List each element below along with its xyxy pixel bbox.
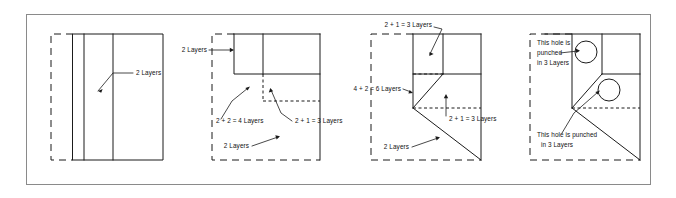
panel4-label-lower-line2: in 3 Layers <box>541 141 573 149</box>
panel4-label-upper-line2: punched <box>537 49 562 57</box>
panel2-label-3-layers: 2 + 1 = 3 Layers <box>295 117 342 125</box>
panel3-label-6-layers: 4 + 2 = 6 Layers <box>354 85 401 93</box>
panel2-label-2-layers-top: 2 Layers <box>182 46 207 54</box>
canvas-background <box>0 0 676 198</box>
panel1-label-2-layers: 2 Layers <box>136 69 161 77</box>
layer-diagram: 2 Layers 2 Layers 2 + 2 = 4 Layers <box>0 0 676 198</box>
panel2-label-2-layers-bottom: 2 Layers <box>224 142 249 150</box>
figure-container: 2 Layers 2 Layers 2 + 2 = 4 Layers <box>0 0 676 198</box>
panel4-label-upper-line1: This hole is <box>537 39 570 46</box>
panel2-label-4-layers: 2 + 2 = 4 Layers <box>216 117 263 125</box>
panel3-label-3-layers-right: 2 + 1 = 3 Layers <box>449 115 496 123</box>
panel4-label-upper-line3: in 3 Layers <box>537 59 569 67</box>
panel3-label-3-layers-top: 2 + 1 = 3 Layers <box>385 21 432 29</box>
panel4-label-lower-line1: This hole is punched <box>537 131 598 139</box>
panel3-label-2-layers: 2 Layers <box>384 143 409 151</box>
